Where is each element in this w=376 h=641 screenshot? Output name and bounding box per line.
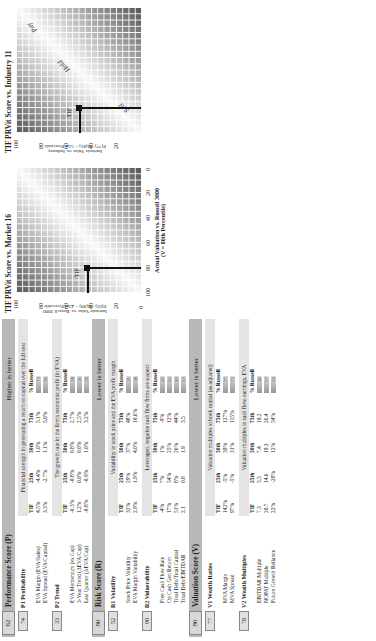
tif-marker xyxy=(84,265,90,271)
scorecard-tables: 62 Performance Score (P) Higher is bette… xyxy=(0,319,376,637)
marker-guide-h xyxy=(79,108,81,133)
table-row: MVA Margin142%-5%39%127%77 xyxy=(222,365,229,607)
v1-desc: Valuation multiples to book capital (as … xyxy=(205,319,215,516)
v2-score: 78 xyxy=(239,611,249,631)
industry-chart: TIF PRVit Score vs. Industry 11 Intrinsi… xyxy=(0,3,180,153)
p2-table: TIF25th50th75th% Russell EVA Momentum (v… xyxy=(62,365,90,607)
risk-note: Lower is better xyxy=(95,319,103,439)
valuation-score-header: 80 Valuation Score (V) Lower is better xyxy=(189,319,202,637)
v1-header: 77 V1 Wealth Ratios Valuation multiples … xyxy=(205,319,215,637)
table-row: EVA Margin Variability2.9%1.9%4.0%10.6%3… xyxy=(132,365,139,607)
performance-note: Higher is better xyxy=(5,319,13,439)
performance-score-header: 62 Performance Score (P) Higher is bette… xyxy=(2,319,15,637)
r1-desc: Variability in stock price and the EVA p… xyxy=(108,319,118,516)
table-row: NOPAT Multiple20.714.619.326.457 xyxy=(263,365,270,607)
table-row: Total Debt/EBITDAR2.10.81.93.553 xyxy=(180,365,187,607)
v2-title: V2 Wealth Multiples xyxy=(241,516,247,608)
table-row: Free Cash Flow Rate-4%7%1%-9%65 xyxy=(159,365,166,607)
p2-score: 33 xyxy=(52,611,62,631)
r2-score: 90 xyxy=(142,611,152,631)
marker-guide-v xyxy=(87,268,141,270)
charts-column: TIF PRVit Score vs. Market 16 Intrinsic … xyxy=(0,0,376,313)
performance-score: 62 xyxy=(2,611,15,635)
p1-desc: Financial strength in generating a retur… xyxy=(18,319,28,516)
v1-score: 77 xyxy=(205,611,215,631)
p2-header: 33 P2 Trend The growth rate in the firm'… xyxy=(52,319,62,637)
table-row: Op Cash Gen Return17%54%25%12%62 xyxy=(166,365,173,607)
r1-score: 52 xyxy=(108,611,118,631)
table-row: Last Quarter (ΔEVA/Cap)-0.8%-0.9%1.0%3.2… xyxy=(83,365,90,607)
valuation-score: 80 xyxy=(189,611,202,635)
p1-header: 74 P1 Profitability Financial strength i… xyxy=(18,319,28,637)
r2-table: TIF25th50th75th% Russell Free Cash Flow … xyxy=(152,365,187,607)
p1-table: TIF25th50th75th% Russell EVA Margin (EVA… xyxy=(28,365,49,607)
report-page: 62 Performance Score (P) Higher is bette… xyxy=(0,0,376,641)
risk-score: 80 xyxy=(92,611,105,635)
table-row: EVA Margin (EVA/Sales)4.5%-4.4%1.0%5.1%7… xyxy=(35,365,42,607)
chart-title: TIF PRVit Score vs. Industry 11 xyxy=(4,51,13,153)
r2-desc: Leveraged, negative cash flow firms are … xyxy=(142,319,152,516)
marker-label: TIF xyxy=(74,268,80,277)
v1-table: TIF25th50th75th% Russell MVA Margin142%-… xyxy=(215,365,236,607)
p1-score: 74 xyxy=(18,611,28,631)
table-row: EVA Momentum (vs Cap)-0.3%-0.8%0.8%2.7%2… xyxy=(69,365,76,607)
table-row: EVA Spread (EVA/Capital)3.3%-2.7%1.1%5.0… xyxy=(42,365,49,607)
tif-marker xyxy=(76,105,82,111)
p2-desc: The growth rate in the firm's economic p… xyxy=(52,319,62,516)
risk-score-header: 80 Risk Score (R) Lower is better xyxy=(92,319,105,637)
risk-title: Risk Score (R) xyxy=(94,439,103,607)
table-row: Future Growth Reliance22%-28%12%54%56 xyxy=(270,365,277,607)
v2-table: TIF25th50th75th% Russell EBITDAR Multipl… xyxy=(249,365,277,607)
marker-guide-v xyxy=(79,108,141,110)
table-row: Total Debt/Total Capital51%8%26%44%83 xyxy=(173,365,180,607)
v2-header: 78 V2 Wealth Multiples Valuation multipl… xyxy=(239,319,249,637)
marker-label: TIF xyxy=(66,108,72,117)
v2-desc: Valuation multiples to cash flow, earnin… xyxy=(239,319,249,516)
marker-guide-h xyxy=(87,268,89,293)
r1-table: TIF25th50th75th% Russell Stock Price Vol… xyxy=(118,365,139,607)
table-row: EBITDAR Multiple7.35.57.410.240 xyxy=(256,365,263,607)
r2-title: R2 Vulnerability xyxy=(144,516,150,608)
v1-title: V1 Wealth Ratios xyxy=(207,516,213,608)
performance-title: Performance Score (P) xyxy=(4,439,13,607)
market-chart: TIF PRVit Score vs. Market 16 Intrinsic … xyxy=(0,163,180,313)
table-row: MVA Spread97%-5%31%115%72 xyxy=(229,365,236,607)
valuation-title: Valuation Score (V) xyxy=(191,439,200,607)
x-axis-label: Actual Valuation vs. Russell 3000(V = 80… xyxy=(154,168,166,293)
r1-title: R1 Volatility xyxy=(110,516,116,608)
table-row: Stock Price Volatility32%29%37%48%35 xyxy=(125,365,132,607)
p2-title: P2 Trend xyxy=(54,516,60,608)
p1-title: P1 Profitability xyxy=(20,516,26,608)
r1-header: 52 R1 Volatility Variability in stock pr… xyxy=(108,319,118,637)
r2-header: 90 R2 Vulnerability Leveraged, negative … xyxy=(142,319,152,637)
chart-title: TIF PRVit Score vs. Market 16 xyxy=(4,214,13,313)
table-row: 3-Year Trend (ΔEVA/Cap)1.2%0.0%0.0%2.5%3… xyxy=(76,365,83,607)
valuation-note: Lower is better xyxy=(192,319,200,439)
